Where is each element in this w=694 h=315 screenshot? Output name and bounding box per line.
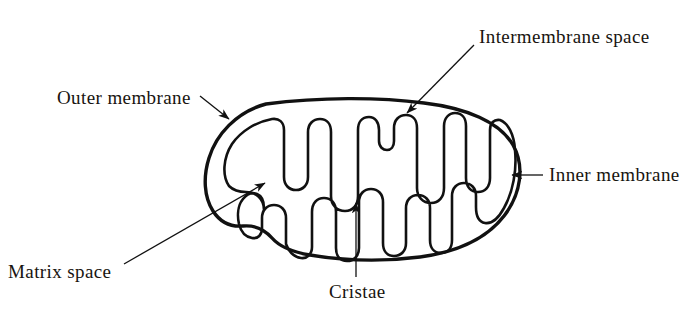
matrix-space-leader-line <box>124 183 265 264</box>
label-outer-membrane: Outer membrane <box>57 88 191 107</box>
label-inner-membrane: Inner membrane <box>549 165 680 184</box>
outer-membrane-leader-line <box>200 96 229 119</box>
label-cristae: Cristae <box>329 282 386 301</box>
inner-membrane-cristae-outline <box>224 113 515 261</box>
intermembrane-space-leader-line <box>407 45 474 113</box>
label-matrix-space: Matrix space <box>8 262 111 281</box>
label-intermembrane-space: Intermembrane space <box>479 27 650 46</box>
outer-membrane-outline <box>205 99 520 260</box>
mitochondrion-diagram: Outer membrane Intermembrane space Inner… <box>0 0 694 315</box>
